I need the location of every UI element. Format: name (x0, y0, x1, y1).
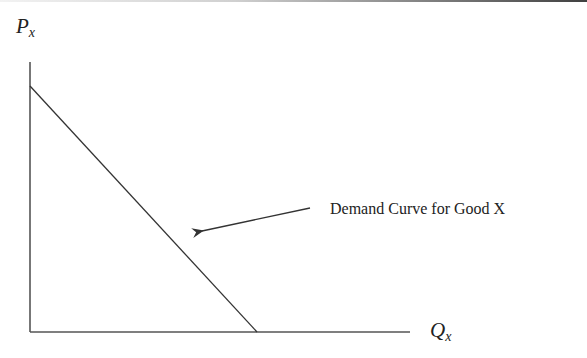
x-axis-label-sub: x (445, 329, 451, 344)
x-axis-label: Qx (430, 318, 451, 345)
demand-curve-annotation: Demand Curve for Good X (330, 200, 505, 218)
diagram-canvas (0, 0, 587, 358)
y-axis-label-sub: x (29, 25, 35, 40)
y-axis-label-main: P (16, 14, 29, 38)
x-axis-label-main: Q (430, 318, 445, 342)
y-axis-label: Px (16, 14, 35, 41)
annotation-arrow (202, 208, 310, 231)
demand-curve (30, 86, 257, 332)
